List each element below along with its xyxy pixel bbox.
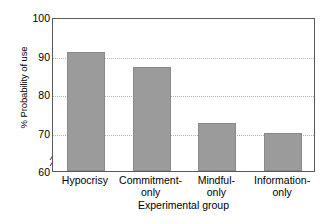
bar-chart-figure: % Probability of use 10090807060 Hypocri…: [0, 0, 330, 224]
y-axis-tick-labels: 10090807060: [12, 0, 50, 224]
bar: [264, 133, 302, 172]
y-axis-tick-label: 70: [16, 129, 50, 139]
y-axis-tick-label: 100: [16, 13, 50, 23]
plot-area: [52, 18, 315, 172]
x-axis-title: Experimental group: [52, 199, 315, 211]
y-axis-tick-label: 90: [16, 52, 50, 62]
bar-series: [53, 19, 314, 171]
bar: [67, 52, 105, 171]
y-axis-tick-label: 80: [16, 90, 50, 100]
bar: [198, 123, 236, 171]
bar: [133, 67, 171, 171]
x-axis-tick-label: Information-only: [241, 175, 323, 198]
